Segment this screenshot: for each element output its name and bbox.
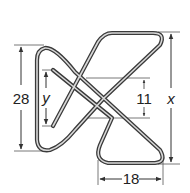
dimension-28: 28	[13, 47, 30, 149]
dimension-y: y	[41, 72, 51, 124]
diagram-canvas: 28 y 11 x 18	[0, 0, 190, 193]
dimension-label-11: 11	[136, 90, 152, 107]
dimension-label-y: y	[41, 89, 51, 106]
dimension-18: 18	[100, 170, 161, 187]
dimension-x: x	[166, 34, 175, 162]
dimension-11: 11	[136, 80, 152, 116]
wire-clip-diagram: 28 y 11 x 18	[0, 0, 190, 193]
dimension-label-28: 28	[13, 90, 30, 107]
dimension-label-x: x	[166, 90, 175, 107]
dimension-label-18: 18	[123, 170, 140, 187]
